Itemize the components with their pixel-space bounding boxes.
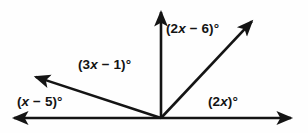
- angle-diagram-svg: [0, 0, 308, 133]
- angle-label-lower-left-rest: − 5)°: [29, 94, 62, 109]
- angle-label-upper-left-variable: x: [90, 57, 98, 72]
- angle-label-lower-left: (x − 5)°: [17, 95, 63, 109]
- angle-label-upper-right: (2x − 6)°: [166, 22, 219, 36]
- angle-label-upper-right-variable: x: [178, 21, 186, 36]
- angle-label-lower-right: (2x)°: [208, 95, 238, 109]
- angle-label-lower-right-coefficient: (2: [208, 94, 220, 109]
- angle-label-upper-right-coefficient: (2: [166, 21, 178, 36]
- angle-label-upper-left-rest: − 1)°: [98, 57, 131, 72]
- angle-label-lower-right-variable: x: [220, 94, 228, 109]
- angle-label-upper-left: (3x − 1)°: [78, 58, 131, 72]
- angle-diagram-figure: (3x − 1)° (2x − 6)° (x − 5)° (2x)°: [0, 0, 308, 133]
- angle-label-upper-right-rest: − 6)°: [186, 21, 219, 36]
- angle-label-upper-left-coefficient: (3: [78, 57, 90, 72]
- angle-label-lower-right-rest: )°: [228, 94, 238, 109]
